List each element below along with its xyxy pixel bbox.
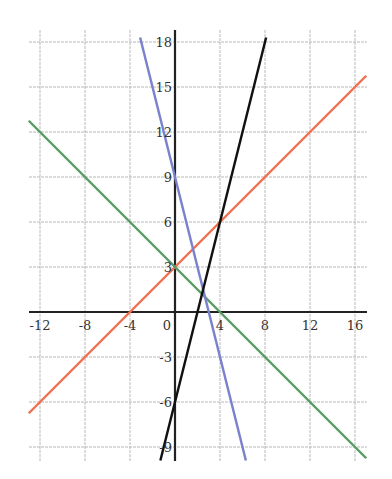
orange-line [29,76,367,414]
y-tick-label: 15 [155,80,172,95]
y-tick-label: -6 [159,395,172,410]
y-tick-label: 9 [164,170,172,185]
y-tick-label: 6 [164,215,172,230]
y-tick-label: 3 [164,260,172,275]
x-tick-label: -8 [79,318,92,333]
x-tick-label: 8 [261,318,269,333]
y-tick-label: 18 [155,35,172,50]
y-tick-label: -3 [159,350,172,365]
x-tick-label: -4 [124,318,137,333]
x-tick-label: 4 [216,318,224,333]
x-tick-label: 12 [302,318,319,333]
x-tick-label: -12 [30,318,51,333]
black-line [160,38,266,461]
plot-lines [29,38,367,461]
y-tick-label: 12 [155,125,172,140]
green-line [29,121,367,459]
x-tick-label: 16 [347,318,364,333]
x-tick-label: 0 [163,318,171,333]
line-chart: -12-8-40481216-9-6-3369121518 [0,0,392,479]
y-tick-label: -9 [159,440,172,455]
